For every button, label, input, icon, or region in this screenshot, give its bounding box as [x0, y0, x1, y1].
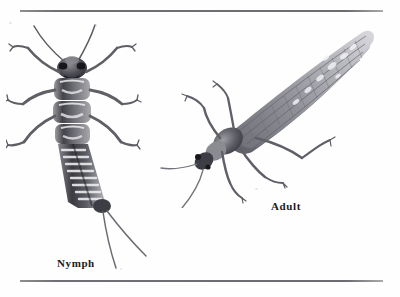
paper-speck [255, 188, 258, 190]
adult-caption-label: Adult [271, 200, 301, 212]
nymph-body-group [6, 25, 146, 268]
top-divider-rule [20, 10, 383, 12]
bottom-divider-rule [20, 280, 383, 282]
figure-plate: Nymph Adult [0, 0, 400, 297]
paper-speck [9, 22, 12, 24]
nymph-caption-label: Nymph [57, 257, 95, 269]
adult-body-group [161, 31, 374, 208]
paper-speck [120, 268, 122, 270]
adult-illustration [160, 18, 398, 208]
nymph-illustration [6, 16, 166, 276]
paper-speck [95, 24, 97, 27]
